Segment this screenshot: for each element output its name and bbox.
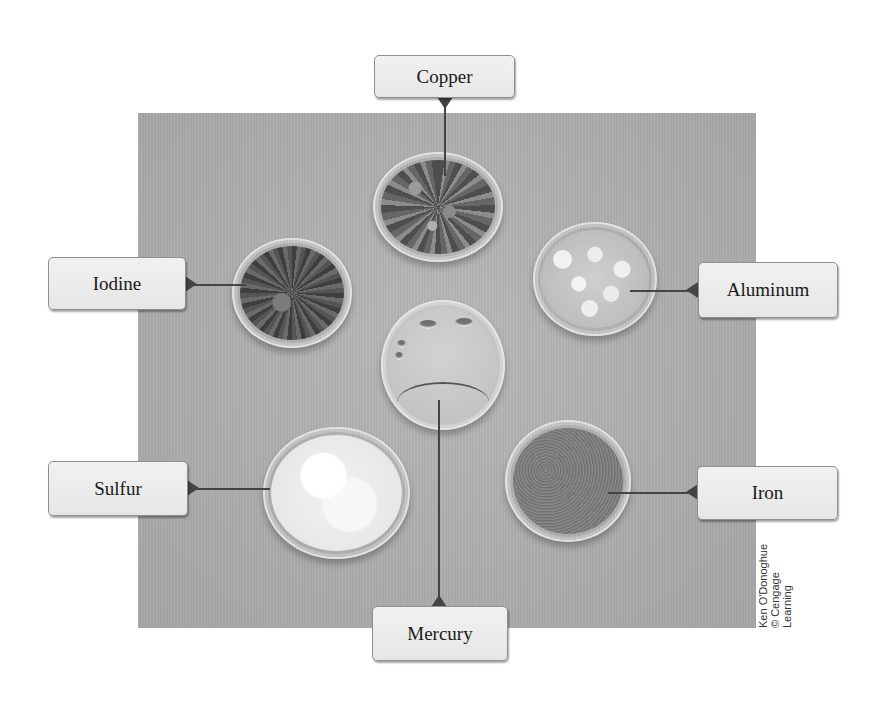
iodine-pointer-icon xyxy=(185,276,197,292)
copper-label: Copper xyxy=(374,55,515,98)
mercury-dish xyxy=(381,300,505,430)
aluminum-label: Aluminum xyxy=(698,262,838,318)
sulfur-dish xyxy=(263,427,410,559)
mercury-droplet xyxy=(397,340,406,348)
mercury-label: Mercury xyxy=(372,606,508,661)
copper-pointer-icon xyxy=(437,97,453,109)
iodine-dish xyxy=(232,238,352,348)
mercury-droplet xyxy=(395,352,403,360)
credit-line-1: Ken O'Donoghue xyxy=(757,544,769,628)
iodine-label: Iodine xyxy=(48,257,186,310)
copper-dish xyxy=(373,152,503,262)
iron-label: Iron xyxy=(697,466,838,520)
sulfur-leader-line xyxy=(188,488,270,490)
photo-credit: Ken O'Donoghue © Cengage Learning xyxy=(757,544,793,628)
aluminum-pointer-icon xyxy=(686,282,698,298)
sulfur-label: Sulfur xyxy=(48,461,188,516)
sulfur-pointer-icon xyxy=(187,480,199,496)
credit-line-3: Learning xyxy=(781,544,793,628)
mercury-leader-line xyxy=(438,400,440,607)
iron-leader-line xyxy=(608,492,698,494)
copper-leader-line xyxy=(444,98,446,176)
mercury-droplet xyxy=(419,320,437,329)
mercury-droplet xyxy=(455,318,473,327)
credit-line-2: © Cengage xyxy=(769,544,781,628)
aluminum-dish xyxy=(533,222,657,336)
iron-dish xyxy=(505,420,631,542)
